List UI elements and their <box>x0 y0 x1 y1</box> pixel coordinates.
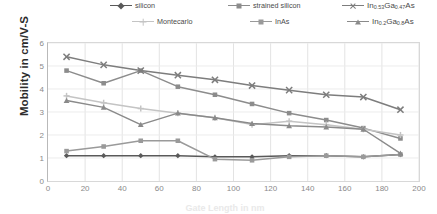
series-strained-silicon-marker <box>213 92 218 97</box>
x-axis-title: Gate Length in nm <box>60 203 390 214</box>
legend-item-in0-2ga0-8as[interactable]: In0.2Ga0.8As <box>347 17 414 26</box>
chart-legend: siliconstrained siliconIn0.53Ga0.47AsMon… <box>110 1 430 33</box>
legend-item-strained-silicon[interactable]: strained silicon <box>228 1 301 10</box>
legend-line-swatch <box>342 5 364 6</box>
mobility-vs-gate-length-chart: siliconstrained siliconIn0.53Ga0.47AsMon… <box>0 0 437 214</box>
series-inas-marker <box>250 158 255 163</box>
x-axis-tick-label: 120 <box>264 184 277 193</box>
series-inas-marker <box>361 155 366 160</box>
x-axis-tick-label: 100 <box>227 184 240 193</box>
legend-line-swatch <box>110 5 132 6</box>
x-axis-tick-label: 80 <box>192 184 201 193</box>
plot-area: 0123456020406080100120140160180200 <box>47 42 420 182</box>
legend-item-montecarlo[interactable]: Montecarlo <box>132 17 193 26</box>
series-strained-silicon-marker <box>176 84 181 89</box>
legend-marker-triangle-icon <box>355 20 361 25</box>
x-axis-tick-label: 140 <box>301 184 314 193</box>
x-axis-tick-label: 40 <box>118 184 127 193</box>
legend-label: strained silicon <box>253 1 301 10</box>
series-inas-marker <box>287 155 292 160</box>
series-inas-marker <box>101 144 106 149</box>
series-inas-marker <box>213 157 218 162</box>
legend-item-silicon[interactable]: silicon <box>110 1 155 10</box>
legend-marker-diamond-icon <box>117 2 124 9</box>
x-axis-tick-label: 0 <box>46 184 50 193</box>
legend-line-swatch <box>250 21 272 22</box>
series-inas-marker <box>324 153 329 158</box>
y-axis-title: Mobility in cm/V-S <box>18 0 30 136</box>
legend-label: In0.53Ga0.47As <box>367 1 415 10</box>
y-axis-tick-label: 4 <box>40 85 44 94</box>
x-axis-tick-label: 200 <box>412 184 425 193</box>
series-strained-silicon-marker <box>64 68 69 73</box>
legend-label: Montecarlo <box>157 17 193 26</box>
legend-label: In0.2Ga0.8As <box>372 17 414 26</box>
x-axis-tick-label: 20 <box>81 184 90 193</box>
plot-svg <box>48 43 419 181</box>
legend-marker-square-icon <box>237 4 242 9</box>
x-axis-tick-label: 60 <box>155 184 164 193</box>
series-strained-silicon-marker <box>287 111 292 116</box>
legend-marker-plus-icon <box>140 19 147 26</box>
x-axis-tick-label: 160 <box>338 184 351 193</box>
series-inas-marker <box>64 149 69 154</box>
legend-marker-cross-icon <box>350 3 357 10</box>
legend-label: silicon <box>135 1 155 10</box>
legend-item-inas[interactable]: InAs <box>250 17 289 26</box>
series-inas-marker <box>176 138 181 143</box>
x-axis-tick-label: 180 <box>375 184 388 193</box>
series-inas-marker <box>138 138 143 143</box>
legend-line-swatch <box>132 21 154 22</box>
series-strained-silicon-marker <box>250 102 255 107</box>
y-axis-tick-label: 2 <box>40 131 44 140</box>
legend-marker-square-icon <box>259 20 264 25</box>
y-axis-tick-label: 1 <box>40 154 44 163</box>
legend-line-swatch <box>347 21 369 22</box>
series-strained-silicon-marker <box>101 81 106 86</box>
y-axis-tick-label: 0 <box>40 177 44 186</box>
legend-line-swatch <box>228 5 250 6</box>
legend-label: InAs <box>275 17 289 26</box>
y-axis-tick-label: 5 <box>40 62 44 71</box>
y-axis-tick-label: 3 <box>40 108 44 117</box>
legend-item-in0-53ga0-47as[interactable]: In0.53Ga0.47As <box>342 1 415 10</box>
y-axis-tick-label: 6 <box>40 39 44 48</box>
